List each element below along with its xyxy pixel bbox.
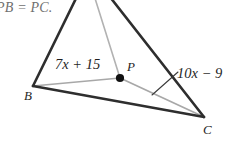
vertex-label-b: B <box>24 89 32 102</box>
given-condition-text: PB = PC. <box>0 1 53 15</box>
segment-label-pb: 7x + 15 <box>55 57 100 72</box>
side-bc <box>33 86 204 117</box>
segment-label-pc: 10x − 9 <box>177 66 222 81</box>
geometry-figure: PB = PC. 7x + 15 10x − 9 P B C <box>0 0 240 147</box>
segment-pb <box>33 78 120 86</box>
vertex-label-p: P <box>127 60 135 73</box>
vertex-label-c: C <box>203 123 212 136</box>
segment-pc <box>120 78 204 117</box>
leader-line-pc <box>152 72 178 95</box>
point-p-dot <box>116 74 124 82</box>
